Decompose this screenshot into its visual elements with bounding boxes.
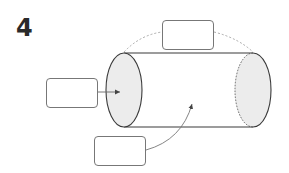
- dashed-arc-left: [124, 32, 162, 52]
- diagram-canvas: 4: [0, 0, 289, 173]
- top-label-box[interactable]: [162, 20, 214, 50]
- left-end-face: [106, 53, 142, 127]
- bottom-label-box[interactable]: [94, 136, 146, 166]
- dashed-arc-right: [214, 32, 253, 52]
- left-label-box[interactable]: [46, 78, 98, 108]
